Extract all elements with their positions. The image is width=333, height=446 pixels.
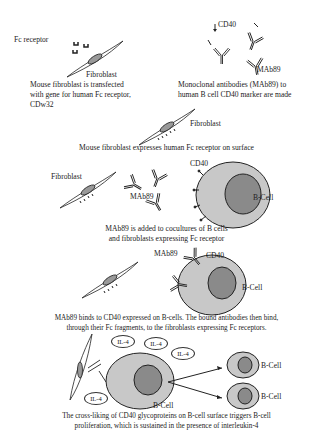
daughter-b-cell-label: B-Cell <box>261 361 281 371</box>
cd40-label: CD40 <box>190 159 208 169</box>
arrow-icon <box>168 382 222 398</box>
cd40-label: CD40 <box>206 251 224 261</box>
panel2-caption-line2: human B cell CD40 marker are made <box>178 90 291 100</box>
fc-receptor-label: Fc receptor <box>14 35 48 45</box>
panel2-caption-line1: Monoclonal antibodies (MAb89) to <box>178 80 286 90</box>
fibroblast-label: Fibroblast <box>86 70 117 80</box>
fibroblast-label: Fibroblast <box>190 119 221 129</box>
b-cell-nucleus <box>134 365 162 395</box>
fibroblast-label: Fibroblast <box>51 172 82 182</box>
mab89-label: MAb89 <box>257 65 281 75</box>
b-cell-nucleus <box>208 267 236 299</box>
il4-badge: IL-4 <box>144 337 168 350</box>
antibody-icon <box>147 169 168 190</box>
panel4-caption-line1: MAb89 is added to cocultures of B cells <box>0 224 333 234</box>
il4-badge: IL-4 <box>171 347 195 360</box>
panel6-caption-line1: The cross-liking of CD40 glycoproteins o… <box>0 411 333 421</box>
mab89-label: MAb89 <box>154 249 178 259</box>
cd40-arrow-icon <box>213 24 217 32</box>
il4-badge: IL-4 <box>84 392 108 405</box>
antibody-icon <box>214 48 231 64</box>
fibroblast-cell-3 <box>139 109 195 145</box>
panel6-caption-line2: proliferation, which is sustained in the… <box>0 421 333 431</box>
fibroblast-cell-5 <box>82 262 138 298</box>
antibody-icon <box>243 32 264 53</box>
panel3-caption: Mouse fibroblast expresses human Fc rece… <box>0 143 333 153</box>
arrow-icon <box>168 368 222 382</box>
panel4-caption-line2: and fibroblasts expressing Fc receptor <box>0 234 333 244</box>
diagram-artwork <box>0 0 333 446</box>
fc-receptor-icons <box>73 42 88 53</box>
panel1-caption-line3: CDw32 <box>30 100 54 110</box>
il4-badge: IL-4 <box>111 335 135 348</box>
daughter-b-cell-label: B-Cell <box>261 392 281 402</box>
b-cell-label: B-Cell <box>153 401 173 411</box>
cd40-label: CD40 <box>218 20 236 30</box>
b-cell-label: B-Cell <box>242 283 262 293</box>
panel1-caption-line1: Mouse fibroblast is transfected <box>30 80 124 90</box>
b-cell-label: B-Cell <box>253 193 273 203</box>
panel1-caption-line2: with gene for human Fc receptor, <box>30 90 131 100</box>
panel5-caption-line1: MAb89 binds to CD40 expressed on B-cells… <box>0 313 333 323</box>
panel5-caption-line2: through their Fc fragments, to the fibro… <box>0 323 333 333</box>
mab89-label: MAb89 <box>130 192 154 202</box>
